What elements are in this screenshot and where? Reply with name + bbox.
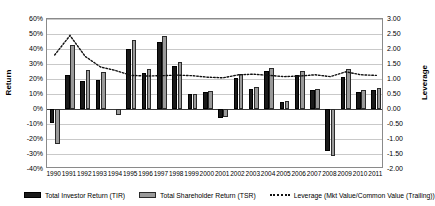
y-axis-left-title: Return — [4, 58, 13, 108]
legend-swatch-leverage-icon — [270, 192, 290, 198]
x-axis-tick-label: 2002 — [230, 170, 245, 178]
legend-swatch-tsr-icon — [139, 192, 156, 198]
x-axis-tick-label: 2011 — [368, 170, 383, 178]
x-axis-tick-label: 1997 — [153, 170, 168, 178]
x-axis-tick-label: 2006 — [291, 170, 306, 178]
x-axis-tick-label: 1999 — [184, 170, 199, 178]
legend-label-tsr: Total Shareholder Return (TSR) — [160, 192, 256, 199]
x-axis-tick-label: 2001 — [215, 170, 230, 178]
y-axis-right-tick-label: 3.00 — [387, 15, 417, 22]
legend-label-leverage: Leverage (Mkt Value/Common Value (Traili… — [294, 192, 435, 199]
x-axis-tick-label: 1992 — [77, 170, 92, 178]
chart-container: Return Leverage -40%-30%-20%-10%0%10%20%… — [0, 0, 435, 206]
y-axis-left-tick-label: 20% — [15, 75, 43, 82]
y-axis-left-tick-label: -40% — [15, 165, 43, 172]
x-axis-tick-label: 2008 — [322, 170, 337, 178]
legend-item-tsr: Total Shareholder Return (TSR) — [139, 192, 256, 199]
y-axis-left-tick-label: 30% — [15, 60, 43, 67]
legend-swatch-tir-icon — [24, 192, 41, 198]
y-axis-right-tick-label: 1.50 — [387, 60, 417, 67]
x-axis-tick-label: 2004 — [260, 170, 275, 178]
y-axis-right-tick-label: -1.50 — [387, 150, 417, 157]
x-axis-tick-label: 1994 — [107, 170, 122, 178]
legend-label-tir: Total Investor Return (TIR) — [45, 192, 125, 199]
y-axis-left-tick-label: 10% — [15, 90, 43, 97]
x-axis-labels: 1990199119921993199419951996199719981999… — [46, 170, 383, 182]
legend-item-tir: Total Investor Return (TIR) — [24, 192, 125, 199]
y-axis-left-tick-label: -30% — [15, 150, 43, 157]
y-axis-right-tick-label: -0.50 — [387, 120, 417, 127]
y-axis-right-tick-label: -1.00 — [387, 135, 417, 142]
y-axis-left-tick-label: -20% — [15, 135, 43, 142]
x-axis-tick-label: 2007 — [306, 170, 321, 178]
y-axis-right-tick-label: -2.00 — [387, 165, 417, 172]
y-axis-left-tick-label: 60% — [15, 15, 43, 22]
x-axis-tick-label: 2009 — [337, 170, 352, 178]
x-axis-tick-label: 1995 — [123, 170, 138, 178]
leverage-line — [47, 19, 383, 168]
x-axis-tick-label: 2005 — [276, 170, 291, 178]
x-axis-tick-label: 2000 — [199, 170, 214, 178]
y-axis-left-tick-label: 40% — [15, 45, 43, 52]
y-axis-right-tick-label: 0.50 — [387, 90, 417, 97]
y-axis-right-tick-label: 2.50 — [387, 30, 417, 37]
y-axis-right-tick-label: 2.00 — [387, 45, 417, 52]
x-axis-tick-label: 1991 — [61, 170, 76, 178]
y-axis-right-tick-label: 1.00 — [387, 75, 417, 82]
chart-legend: Total Investor Return (TIR) Total Shareh… — [24, 188, 424, 202]
y-axis-left-tick-label: 0% — [15, 105, 43, 112]
legend-item-leverage: Leverage (Mkt Value/Common Value (Traili… — [270, 192, 435, 199]
y-axis-left-tick-label: -10% — [15, 120, 43, 127]
y-axis-right-tick-label: 0.00 — [387, 105, 417, 112]
y-axis-left-tick-label: 50% — [15, 30, 43, 37]
x-axis-tick-label: 1998 — [169, 170, 184, 178]
x-axis-tick-label: 1996 — [138, 170, 153, 178]
plot-area — [46, 18, 383, 168]
x-axis-tick-label: 1990 — [46, 170, 61, 178]
x-axis-tick-label: 2010 — [352, 170, 367, 178]
x-axis-tick-label: 2003 — [245, 170, 260, 178]
x-axis-tick-label: 1993 — [92, 170, 107, 178]
y-axis-right-title: Leverage — [420, 58, 429, 108]
